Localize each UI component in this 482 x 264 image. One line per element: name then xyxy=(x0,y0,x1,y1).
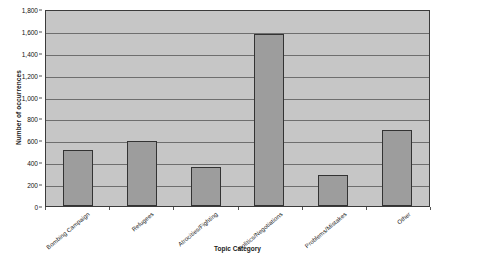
y-axis-tick-label: 400 xyxy=(27,160,38,167)
y-axis-tick-label: 1,800 xyxy=(22,7,38,14)
x-axis-category-label: Other xyxy=(396,211,412,226)
y-axis-tick-label: 800 xyxy=(27,116,38,123)
y-axis-tick-label: 1,200 xyxy=(22,72,38,79)
y-axis-tick-mark xyxy=(39,53,42,54)
y-axis-tick-labels: 02004006008001,0001,2001,4001,6001,800 xyxy=(0,10,42,207)
bar xyxy=(254,34,284,206)
x-axis-tick-mark xyxy=(366,207,367,210)
x-axis-category-label: Problems/Mistakes xyxy=(304,211,348,249)
y-axis-tick-label: 200 xyxy=(27,182,38,189)
bar xyxy=(63,150,93,206)
y-axis-tick-mark xyxy=(39,207,42,208)
y-axis-tick-mark xyxy=(39,75,42,76)
x-axis-tick-mark xyxy=(109,207,110,210)
y-axis-tick-label: 600 xyxy=(27,138,38,145)
x-axis-tick-mark xyxy=(173,207,174,210)
x-axis-category-labels: Bombing CampaignRefugeesAtrocities/Fight… xyxy=(45,211,430,261)
bar xyxy=(382,130,412,206)
plot-area xyxy=(45,10,430,207)
y-axis-tick-mark xyxy=(39,31,42,32)
x-axis-tick-mark xyxy=(430,207,431,210)
y-axis-tick-label: 1,400 xyxy=(22,50,38,57)
y-axis-tick-label: 1,000 xyxy=(22,94,38,101)
y-axis-tick-label: 0 xyxy=(34,204,38,211)
bars-layer xyxy=(46,11,429,206)
x-axis-category-label: Refugees xyxy=(131,211,155,233)
bar-chart: Number of occurrences 02004006008001,000… xyxy=(0,0,482,264)
y-axis-tick-mark xyxy=(39,185,42,186)
y-axis-tick-mark xyxy=(39,10,42,11)
x-axis-title: Topic Category xyxy=(45,245,430,252)
y-axis-tick-mark xyxy=(39,141,42,142)
y-axis-tick-label: 1,600 xyxy=(22,28,38,35)
x-axis-tick-mark xyxy=(238,207,239,210)
bar xyxy=(127,141,157,206)
y-axis-tick-mark xyxy=(39,119,42,120)
x-axis-category-label: Atrocities/Fighting xyxy=(177,211,219,247)
bar xyxy=(191,167,221,206)
x-axis-tick-mark xyxy=(302,207,303,210)
y-axis-tick-mark xyxy=(39,163,42,164)
y-axis-tick-mark xyxy=(39,97,42,98)
x-axis-tick-mark xyxy=(45,207,46,210)
bar xyxy=(318,175,348,206)
